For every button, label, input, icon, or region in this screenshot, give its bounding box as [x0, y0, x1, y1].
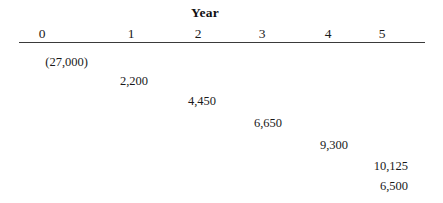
year-tick-label: 2 — [188, 26, 208, 41]
cash-flow-timeline-figure: Year 012345 (27,000)2,2004,4506,6509,300… — [0, 0, 443, 203]
timeline-axis-line — [19, 42, 425, 43]
cash-flow-value: 6,500 — [380, 179, 408, 193]
cash-flow-value: 10,125 — [374, 159, 408, 173]
year-tick-label: 1 — [121, 26, 141, 41]
year-tick-label: 4 — [318, 26, 338, 41]
cash-flow-value: (27,000) — [45, 55, 88, 69]
year-tick-label: 5 — [372, 26, 392, 41]
cash-flow-value: 9,300 — [320, 138, 348, 152]
year-tick-label: 0 — [32, 26, 52, 41]
cash-flow-value: 4,450 — [188, 94, 216, 108]
page-title: Year — [0, 5, 410, 21]
cash-flow-value: 6,650 — [254, 116, 282, 130]
year-tick-label: 3 — [252, 26, 272, 41]
cash-flow-value: 2,200 — [120, 74, 148, 88]
